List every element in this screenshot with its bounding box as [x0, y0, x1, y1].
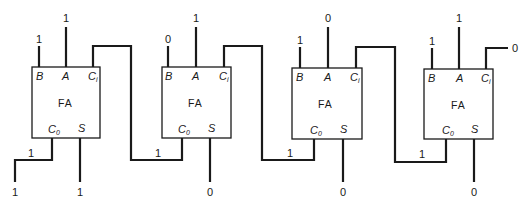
input-a-value: 1: [456, 12, 462, 24]
fa-label: FA: [188, 97, 203, 109]
input-a-value: 1: [193, 12, 199, 24]
pin-s: S: [471, 123, 479, 135]
input-b-value: 1: [429, 35, 435, 47]
carry-out-value: 1: [419, 148, 425, 160]
pin-a: A: [61, 70, 69, 82]
fa-label: FA: [451, 99, 466, 111]
sum-value: 1: [77, 186, 83, 198]
fa-label: FA: [58, 97, 73, 109]
pin-b: B: [36, 70, 43, 82]
input-a-value: 0: [325, 12, 331, 24]
fa-label: FA: [318, 98, 333, 110]
input-b-value: 1: [36, 33, 42, 45]
full-adder-4: 1 1 0 B A Ci FA C0 S 1 0: [419, 12, 518, 198]
pin-b: B: [165, 70, 172, 82]
ripple-carry-adder-diagram: 1 1 B A Ci FA C0 S 1 1 1 0 1 B A Ci FA C…: [0, 0, 528, 209]
pin-s: S: [340, 123, 348, 135]
pin-s: S: [78, 122, 86, 134]
final-carry-out-value: 1: [12, 186, 18, 198]
pin-a: A: [455, 72, 463, 84]
full-adder-3: 1 0 B A Ci FA C0 S 1 0: [287, 12, 362, 198]
sum-value: 0: [471, 186, 477, 198]
input-b-value: 0: [165, 33, 171, 45]
input-a-value: 1: [63, 12, 69, 24]
sum-value: 0: [340, 186, 346, 198]
pin-b: B: [296, 71, 303, 83]
pin-s: S: [208, 122, 216, 134]
carry-out-value: 1: [28, 147, 34, 159]
input-b-value: 1: [297, 34, 303, 46]
carry-out-value: 1: [155, 147, 161, 159]
carry-in-value: 0: [512, 42, 518, 54]
sum-value: 0: [207, 186, 213, 198]
pin-a: A: [191, 70, 199, 82]
pin-b: B: [428, 72, 435, 84]
carry-out-value: 1: [287, 147, 293, 159]
full-adder-2: 0 1 B A Ci FA C0 S 1 0: [155, 12, 231, 198]
full-adder-1: 1 1 B A Ci FA C0 S 1 1 1: [12, 12, 100, 198]
pin-a: A: [323, 71, 331, 83]
